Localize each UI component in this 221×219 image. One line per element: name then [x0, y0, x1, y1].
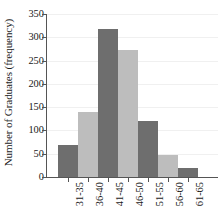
x-axis-tick-labels: 31-3536-4041-4546-5051-5556-6061-65 [46, 182, 218, 219]
y-axis-tick-label: 0 [17, 172, 44, 182]
x-axis-tick-label: 61-65 [194, 182, 206, 219]
y-axis-tick-labels: 050100150200250300350 [17, 14, 44, 178]
x-axis-tick-label: 51-55 [154, 182, 166, 219]
plot-area [46, 14, 218, 178]
y-axis-title-text: Number of Graduates (frequency) [3, 19, 14, 167]
y-axis-tick-label: 50 [17, 149, 44, 159]
x-axis-tick-label: 31-35 [74, 182, 86, 219]
bar [98, 29, 118, 177]
x-axis-tick-label: 41-45 [114, 182, 126, 219]
y-axis-tick-label: 200 [17, 79, 44, 89]
x-axis-tick-label: 46-50 [134, 182, 146, 219]
y-axis-tick-label: 300 [17, 32, 44, 42]
bar-chart: Number of Graduates (frequency) 05010015… [0, 0, 221, 219]
bar [78, 112, 98, 177]
bar [178, 168, 198, 177]
y-axis-tick-label: 100 [17, 125, 44, 135]
y-axis-line [46, 14, 47, 178]
y-axis-tick-label: 250 [17, 55, 44, 65]
x-axis-line [46, 177, 218, 178]
y-axis-title: Number of Graduates (frequency) [0, 0, 18, 185]
bar [58, 145, 78, 177]
bar [138, 121, 158, 177]
x-axis-tick-label: 36-40 [94, 182, 106, 219]
y-axis-tick-label: 150 [17, 102, 44, 112]
x-axis-tick-label: 56-60 [174, 182, 186, 219]
bar [118, 50, 138, 177]
bar-series [46, 14, 218, 178]
bar [158, 155, 178, 177]
y-axis-tick-label: 350 [17, 9, 44, 19]
